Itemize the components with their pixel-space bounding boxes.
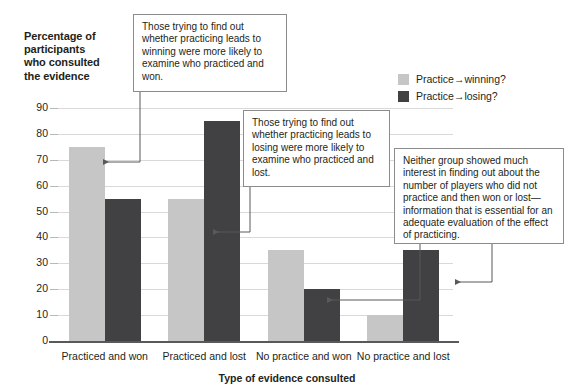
bar-light-group-4 — [367, 315, 403, 341]
y-tick-label-80: 80 — [18, 127, 48, 139]
x-axis-baseline — [49, 341, 459, 343]
y-tick-label-70: 70 — [18, 153, 48, 165]
y-tick-mark-50 — [50, 212, 58, 213]
x-axis-title: Type of evidence consulted — [0, 372, 574, 384]
y-tick-mark-30 — [50, 263, 58, 264]
callout-practiced-and-won: Those trying to find out whether practic… — [133, 14, 287, 92]
bar-dark-group-1 — [105, 199, 141, 341]
y-tick-label-50: 50 — [18, 205, 48, 217]
legend-swatch-light-gray — [398, 74, 409, 85]
chart-figure: Percentage of participants who consulted… — [0, 0, 574, 390]
x-axis-label-4: No practice and lost — [344, 350, 464, 362]
bar-dark-group-3 — [304, 289, 340, 341]
legend-item-practice-winning: Practice→winning? — [398, 72, 506, 86]
callout-no-practice: Neither group showed much interest in fi… — [394, 148, 564, 244]
bar-light-group-1 — [69, 147, 105, 341]
legend-label-practice-winning: Practice→winning? — [416, 73, 506, 85]
y-tick-mark-40 — [50, 237, 58, 238]
bar-light-group-2 — [168, 199, 204, 341]
y-tick-mark-60 — [50, 186, 58, 187]
y-tick-mark-10 — [50, 315, 58, 316]
leader-line-no-practice-and-lost — [455, 244, 492, 282]
y-tick-label-0: 0 — [18, 334, 48, 346]
callout-practiced-and-lost: Those trying to find out whether practic… — [243, 110, 390, 187]
bar-dark-group-4 — [403, 250, 439, 341]
gridline-90 — [55, 108, 453, 109]
bar-light-group-3 — [268, 250, 304, 341]
y-tick-label-10: 10 — [18, 308, 48, 320]
y-tick-mark-70 — [50, 160, 58, 161]
y-tick-label-90: 90 — [18, 101, 48, 113]
y-tick-label-30: 30 — [18, 256, 48, 268]
y-tick-mark-90 — [50, 108, 58, 109]
y-tick-label-20: 20 — [18, 282, 48, 294]
y-tick-mark-20 — [50, 289, 58, 290]
y-tick-label-60: 60 — [18, 179, 48, 191]
y-tick-label-40: 40 — [18, 230, 48, 242]
bar-dark-group-2 — [204, 121, 240, 341]
y-tick-mark-80 — [50, 134, 58, 135]
